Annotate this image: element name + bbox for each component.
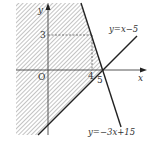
tick-label-y-3: 3 — [40, 30, 46, 40]
x-axis-arrow-icon — [140, 68, 147, 73]
y-axis-label: y — [37, 5, 44, 15]
shaded-region — [16, 3, 103, 135]
line-label-y-eq-neg3x-plus-15: y=−3x+15 — [87, 127, 135, 137]
tick-label-x-4: 4 — [88, 71, 94, 81]
tick-label-x-5: 5 — [97, 75, 103, 85]
graph-figure: y x O 3 4 5 y=x−5 y=−3x+15 — [0, 0, 152, 151]
origin-label: O — [38, 72, 45, 82]
line-label-y-eq-x-minus-5: y=x−5 — [108, 24, 138, 34]
x-axis-label: x — [138, 73, 143, 83]
